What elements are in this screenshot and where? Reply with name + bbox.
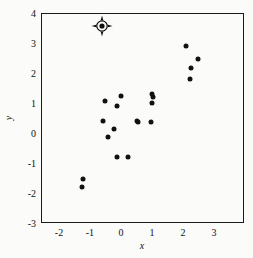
data-point[interactable]: [114, 104, 119, 109]
plot-area: [41, 13, 244, 223]
x-axis-tick-label: 2: [180, 227, 185, 238]
y-axis-title: y: [3, 116, 14, 120]
y-axis-tick-label: -2: [20, 188, 36, 199]
data-point[interactable]: [106, 135, 111, 140]
x-axis-tick-label: 3: [211, 227, 216, 238]
scatter-plot-figure: x y -2-10123-3-2-101234: [0, 0, 253, 258]
data-point[interactable]: [184, 44, 189, 49]
data-point[interactable]: [149, 120, 154, 125]
x-axis-tick-label: -2: [55, 227, 63, 238]
data-point[interactable]: [80, 184, 85, 189]
data-point[interactable]: [80, 177, 85, 182]
data-point[interactable]: [111, 127, 116, 132]
data-point[interactable]: [136, 119, 141, 124]
data-point[interactable]: [150, 94, 155, 99]
x-axis-tick-label: 1: [149, 227, 154, 238]
y-axis-tick-label: -1: [20, 158, 36, 169]
data-point[interactable]: [196, 56, 201, 61]
x-axis-title: x: [140, 240, 144, 251]
data-point[interactable]: [115, 154, 120, 159]
data-point[interactable]: [189, 65, 194, 70]
highlighted-data-point[interactable]: [91, 15, 113, 37]
y-axis-tick-label: 2: [20, 68, 36, 79]
data-point[interactable]: [188, 76, 193, 81]
data-point[interactable]: [102, 98, 107, 103]
y-axis-tick-label: 3: [20, 38, 36, 49]
data-point[interactable]: [100, 118, 105, 123]
y-axis-tick-label: -3: [20, 218, 36, 229]
y-axis-tick-label: 1: [20, 98, 36, 109]
y-axis-tick-label: 4: [20, 8, 36, 19]
data-point[interactable]: [150, 101, 155, 106]
y-axis-tick-label: 0: [20, 128, 36, 139]
x-axis-tick-label: 0: [118, 227, 123, 238]
data-point[interactable]: [118, 93, 123, 98]
x-axis-tick-label: -1: [86, 227, 94, 238]
data-point[interactable]: [125, 154, 130, 159]
